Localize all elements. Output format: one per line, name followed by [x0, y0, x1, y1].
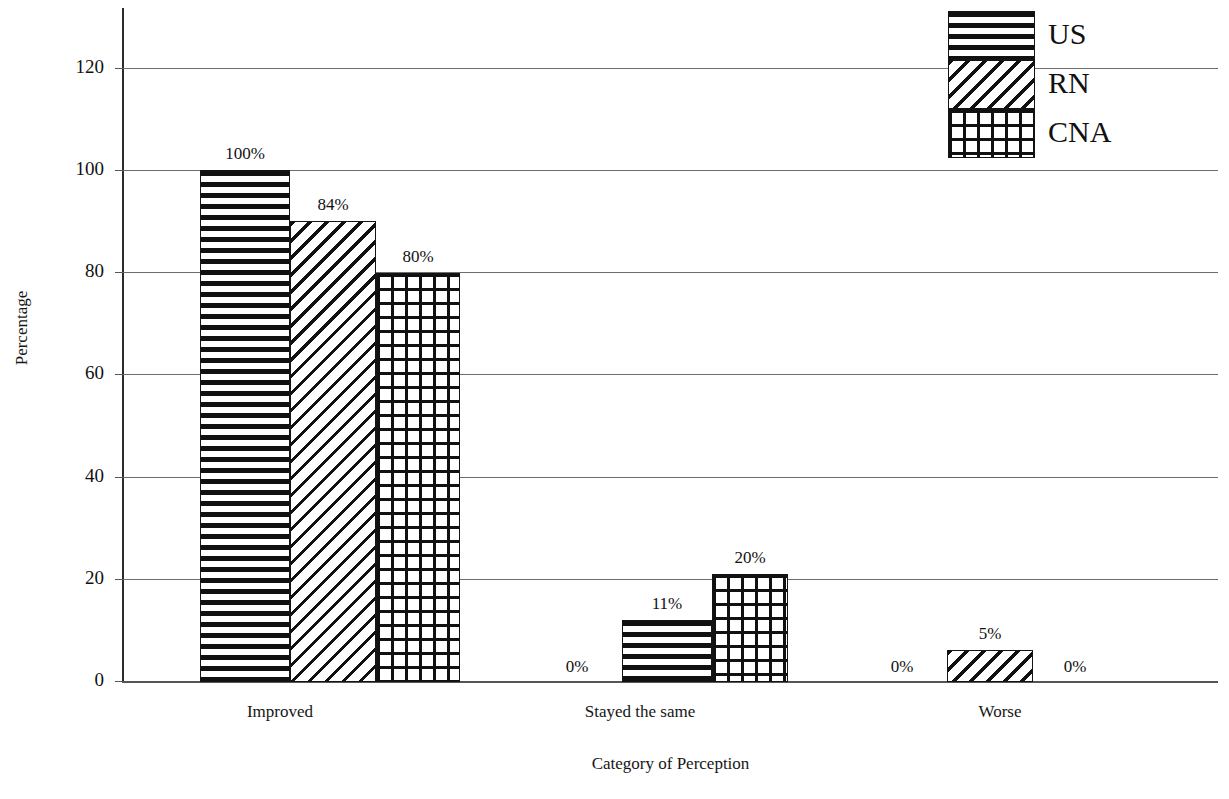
legend-label-rn: RN — [1048, 66, 1090, 100]
legend-swatch-cna-icon — [948, 109, 1035, 158]
bar-label-stayed-us: 0% — [532, 657, 622, 677]
y-axis-line — [122, 8, 124, 682]
legend-swatch-rn-icon — [948, 60, 1035, 109]
ytick-label-120: 120 — [34, 56, 104, 78]
tick-20 — [115, 579, 123, 580]
category-label-stayed-the-same: Stayed the same — [540, 702, 740, 722]
bar-label-improved-cna: 80% — [376, 247, 460, 267]
bar-label-worse-cna: 0% — [1033, 657, 1117, 677]
tick-100 — [115, 170, 123, 171]
bar-label-stayed-rn: 11% — [622, 594, 712, 614]
tick-0 — [115, 681, 123, 682]
tick-60 — [115, 374, 123, 375]
plot-area: 120 100 80 60 40 20 0 100% 84% 80% 0% 11… — [122, 8, 1218, 682]
tick-80 — [115, 272, 123, 273]
bar-label-stayed-cna: 20% — [712, 548, 788, 568]
bar-worse-rn[interactable] — [947, 650, 1033, 682]
bar-stayed-cna[interactable] — [712, 574, 788, 682]
category-label-improved: Improved — [200, 702, 360, 722]
ytick-label-100: 100 — [34, 158, 104, 180]
bar-label-improved-rn: 84% — [290, 195, 376, 215]
bar-label-improved-us: 100% — [200, 144, 290, 164]
legend-swatch-us-icon — [948, 11, 1035, 60]
bar-chart: Percentage 120 100 80 60 40 20 0 100% — [0, 0, 1229, 799]
tick-40 — [115, 477, 123, 478]
ytick-label-80: 80 — [34, 260, 104, 282]
bar-stayed-rn[interactable] — [622, 620, 712, 682]
bar-improved-rn[interactable] — [290, 221, 376, 682]
bar-label-worse-rn: 5% — [947, 624, 1033, 644]
bar-label-worse-us: 0% — [857, 657, 947, 677]
x-axis-title: Category of Perception — [56, 754, 1229, 774]
bar-improved-cna[interactable] — [376, 273, 460, 682]
category-label-worse: Worse — [930, 702, 1070, 722]
y-axis-title: Percentage — [12, 268, 32, 388]
ytick-label-40: 40 — [34, 465, 104, 487]
ytick-label-60: 60 — [34, 362, 104, 384]
bar-improved-us[interactable] — [200, 170, 290, 682]
tick-120 — [115, 68, 123, 69]
ytick-label-0: 0 — [34, 669, 104, 691]
ytick-label-20: 20 — [34, 567, 104, 589]
legend-label-us: US — [1048, 17, 1086, 51]
legend-label-cna: CNA — [1048, 115, 1111, 149]
